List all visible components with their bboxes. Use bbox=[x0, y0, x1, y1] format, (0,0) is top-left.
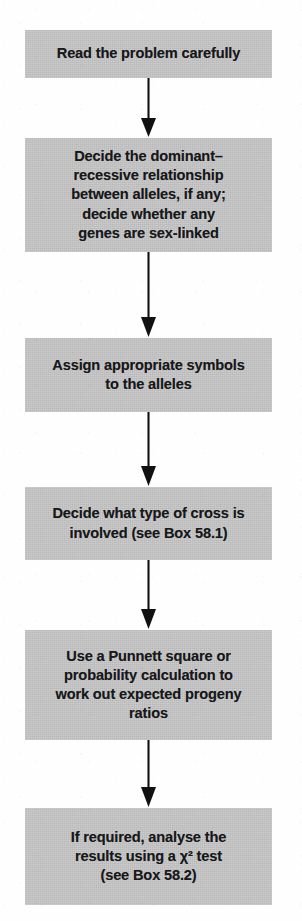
flowchart-node-label: If required, analyse the results using a… bbox=[71, 828, 226, 886]
flowchart-arrow-2-3 bbox=[0, 252, 302, 338]
flowchart-arrow-5-6 bbox=[0, 740, 302, 808]
flowchart-node-label: Use a Punnett square or probability calc… bbox=[55, 647, 241, 724]
flowchart-node-label: Decide the dominant– recessive relations… bbox=[71, 147, 226, 243]
flowchart-node-step-4: Decide what type of cross is involved (s… bbox=[25, 487, 272, 560]
flowchart-node-step-5: Use a Punnett square or probability calc… bbox=[25, 630, 272, 740]
flowchart-node-step-6: If required, analyse the results using a… bbox=[25, 808, 272, 905]
flowchart-node-label: Assign appropriate symbols to the allele… bbox=[52, 356, 244, 395]
flowchart-node-label: Read the problem carefully bbox=[57, 44, 240, 63]
flowchart-node-step-2: Decide the dominant– recessive relations… bbox=[25, 138, 272, 252]
flowchart-node-step-1: Read the problem carefully bbox=[25, 30, 272, 78]
flowchart-arrow-3-4 bbox=[0, 412, 302, 487]
flowchart-node-label: Decide what type of cross is involved (s… bbox=[52, 504, 244, 543]
flowchart-node-step-3: Assign appropriate symbols to the allele… bbox=[25, 338, 272, 412]
flowchart-page: Read the problem carefully Decide the do… bbox=[0, 0, 302, 921]
flowchart-arrow-4-5 bbox=[0, 560, 302, 630]
flowchart-arrow-1-2 bbox=[0, 78, 302, 138]
